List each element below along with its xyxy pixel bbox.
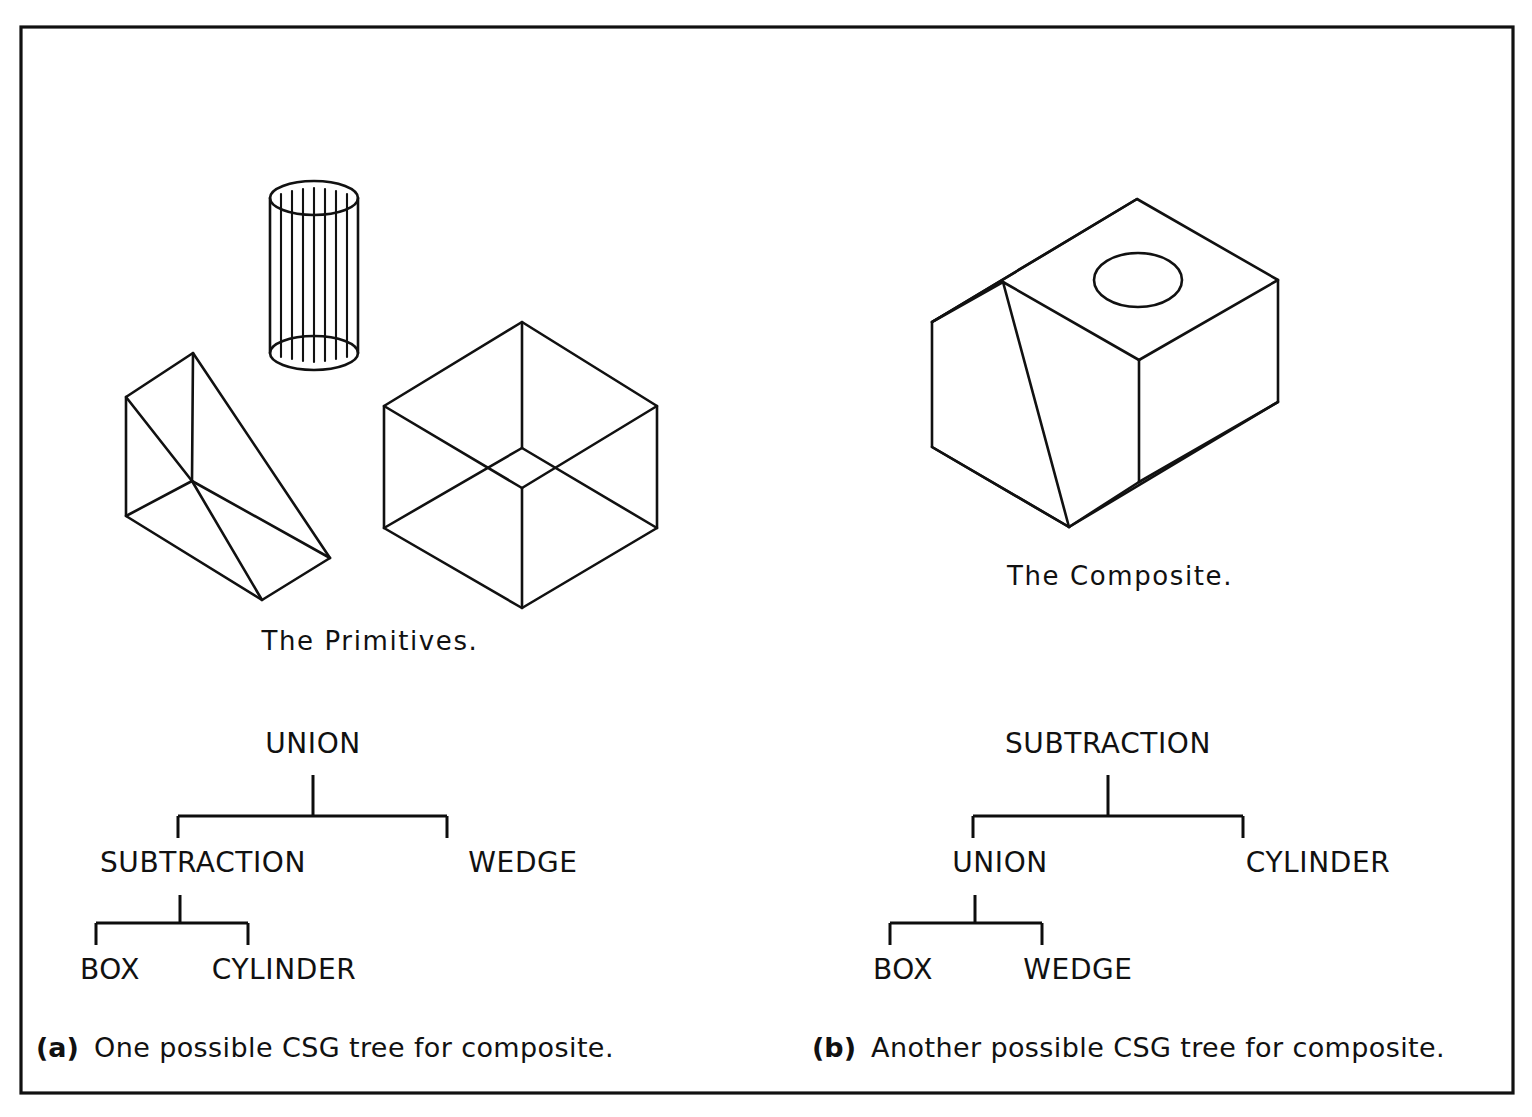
tree-b-level2-left-label: UNION [952,846,1048,879]
caption-b: (b) Another possible CSG tree for compos… [812,1032,1445,1063]
csg-tree-a: UNION SUBTRACTION WEDGE BOX CYLINDER [80,727,578,986]
tree-b-root-label: SUBTRACTION [1005,727,1211,760]
csg-tree-b: SUBTRACTION UNION CYLINDER BOX WEDGE [873,727,1390,986]
composite-hole-icon [1094,253,1182,307]
tree-a-level3-left-label: BOX [80,953,140,986]
cylinder-ribs [281,188,347,362]
wedge-primitive [126,353,330,600]
cylinder-primitive [270,181,358,370]
tree-b-level3-right-label: WEDGE [1023,953,1132,986]
tree-a-level2-left-label: SUBTRACTION [100,846,306,879]
svg-text:(a) One possible CSG t: (a) One possible CSG tree for composite. [36,1032,614,1063]
primitives-illustration: The Primitives. [126,181,657,656]
figure-border [21,27,1513,1093]
caption-a-text: One possible CSG tree for composite. [94,1032,614,1063]
caption-b-tag: (b) [812,1032,856,1063]
tree-a-level3-right-label: CYLINDER [212,953,356,986]
composite-label: The Composite. [1006,561,1233,591]
primitives-label: The Primitives. [261,626,479,656]
svg-text:(b) Another possible C: (b) Another possible CSG tree for compos… [812,1032,1445,1063]
caption-a: (a) One possible CSG tree for composite. [36,1032,614,1063]
composite-illustration: The Composite. [932,199,1278,591]
figure-root: The Primitives. [0,0,1532,1117]
tree-b-level3-left-label: BOX [873,953,933,986]
caption-a-tag: (a) [36,1032,79,1063]
tree-a-root-label: UNION [265,727,361,760]
box-primitive [384,322,657,608]
tree-a-level2-right-label: WEDGE [468,846,577,879]
tree-b-level2-right-label: CYLINDER [1246,846,1390,879]
figure-canvas: The Primitives. [0,0,1532,1117]
caption-b-text: Another possible CSG tree for composite. [871,1032,1445,1063]
composite-solid [932,199,1278,527]
